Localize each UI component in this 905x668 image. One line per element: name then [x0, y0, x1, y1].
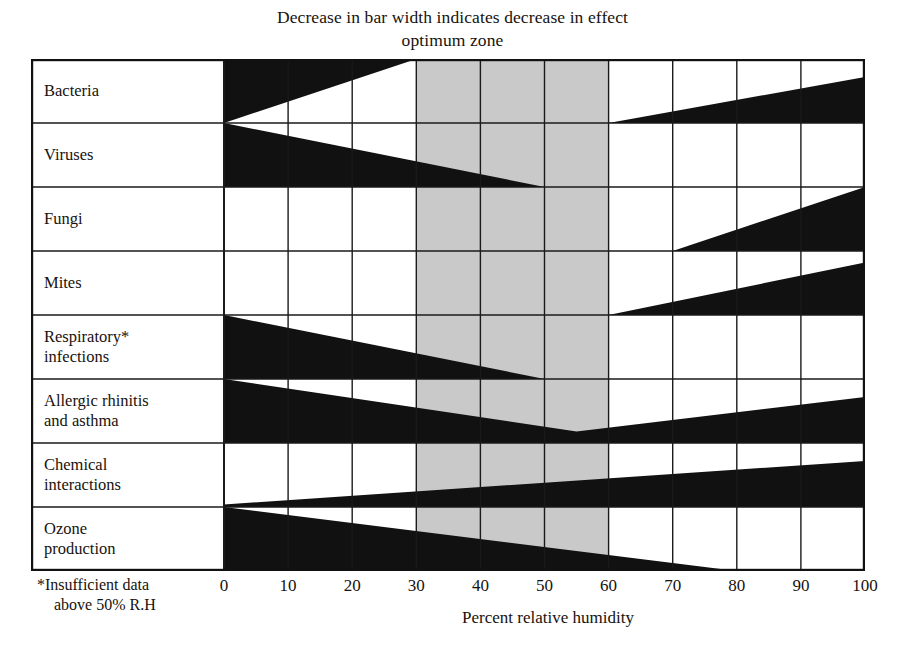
- x-axis-tick-label: 30: [408, 576, 425, 596]
- chart-canvas: [31, 59, 865, 571]
- chart-title-line-2: optimum zone: [0, 29, 905, 52]
- x-axis-tick-label: 100: [852, 576, 878, 596]
- chart-title: Decrease in bar width indicates decrease…: [0, 6, 905, 52]
- chart-plot-area: BacteriaVirusesFungiMitesRespiratory*inf…: [31, 59, 865, 571]
- bar-wedge: [673, 187, 865, 251]
- sterling-chart-figure: Decrease in bar width indicates decrease…: [0, 0, 905, 668]
- x-axis-tick-label: 50: [536, 576, 553, 596]
- bar-wedge: [224, 59, 416, 123]
- x-axis-tick-label: 80: [728, 576, 745, 596]
- chart-title-line-1: Decrease in bar width indicates decrease…: [0, 6, 905, 29]
- footnote-line-2: above 50% R.H: [37, 595, 227, 615]
- x-axis-tick-label: 20: [344, 576, 361, 596]
- x-axis-tick-label: 40: [472, 576, 489, 596]
- x-axis-tick-label: 10: [280, 576, 297, 596]
- x-axis-caption: Percent relative humidity: [228, 608, 868, 628]
- x-axis-tick-label: 70: [664, 576, 681, 596]
- x-axis-tick-label: 90: [792, 576, 809, 596]
- footnote: *Insufficient data above 50% R.H: [37, 575, 227, 616]
- footnote-line-1: *Insufficient data: [37, 575, 227, 595]
- x-axis-tick-label: 60: [600, 576, 617, 596]
